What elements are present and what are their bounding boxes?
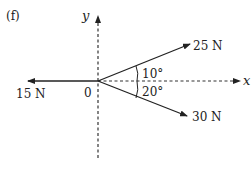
force-30n-label: 30 N bbox=[192, 110, 222, 124]
x-axis-label: x bbox=[243, 73, 251, 88]
angle-arc-10 bbox=[136, 66, 138, 81]
force-diagram: (f) y x 0 25 N 30 N 15 N 10° 20° bbox=[0, 0, 252, 176]
figure-label: (f) bbox=[6, 9, 20, 23]
force-15n-label: 15 N bbox=[16, 87, 46, 101]
origin-label: 0 bbox=[84, 86, 92, 100]
angle-20-label: 20° bbox=[142, 85, 163, 99]
angle-10-label: 10° bbox=[142, 67, 163, 81]
y-axis-label: y bbox=[81, 8, 90, 23]
force-25n-label: 25 N bbox=[193, 39, 223, 53]
